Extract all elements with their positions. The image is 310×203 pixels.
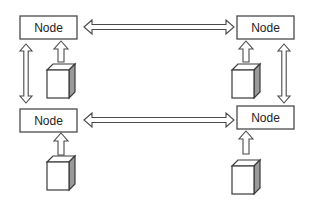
double-arrow-bottom-horizontal: [84, 113, 234, 127]
cube-icon: [47, 64, 75, 98]
network-diagram: Node Node Node Node: [0, 0, 310, 203]
cube-icon: [232, 160, 260, 194]
node-label-top-left: Node: [34, 21, 63, 35]
cube-icon: [47, 156, 75, 190]
up-arrow-top-left: [54, 41, 68, 62]
up-arrow-top-right: [239, 41, 253, 62]
double-arrow-right-vertical: [278, 44, 290, 103]
cube-icon: [232, 64, 260, 98]
node-label-bottom-left: Node: [34, 114, 63, 128]
double-arrow-top-horizontal: [84, 20, 234, 34]
up-arrow-bottom-right: [239, 131, 253, 154]
double-arrow-left-vertical: [20, 44, 32, 103]
node-label-top-right: Node: [251, 21, 280, 35]
node-label-bottom-right: Node: [251, 111, 280, 125]
up-arrow-bottom-left: [54, 133, 68, 155]
